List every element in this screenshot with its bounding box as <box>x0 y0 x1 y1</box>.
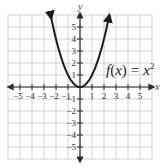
y-tick-label: −3 <box>66 118 76 128</box>
function-label: f(x)=x2 <box>106 61 154 79</box>
x-tick-label: −2 <box>49 91 59 101</box>
fn-paren-close: ) <box>122 62 127 79</box>
fn-eq: = <box>131 62 139 78</box>
x-tick-label: −3 <box>37 91 47 101</box>
y-axis-label: y <box>77 1 83 12</box>
y-tick-label: −1 <box>66 94 76 104</box>
x-tick-label: 2 <box>102 91 107 101</box>
y-tick-label: 3 <box>72 46 77 56</box>
function-graph: −5−4−3−2−11234554321−1−2−3−4−5 x y f(x)=… <box>0 0 162 167</box>
x-axis-label: x <box>154 81 160 92</box>
y-tick-label: 2 <box>72 58 77 68</box>
x-tick-label: 3 <box>114 91 119 101</box>
x-tick-label: −5 <box>13 91 23 101</box>
x-tick-label: 5 <box>138 91 143 101</box>
y-tick-label: 4 <box>72 34 77 44</box>
y-tick-label: −2 <box>66 106 76 116</box>
x-tick-label: 4 <box>126 91 131 101</box>
y-tick-label: −4 <box>66 130 76 140</box>
fn-exp: 2 <box>150 61 155 71</box>
y-tick-label: 1 <box>72 70 77 80</box>
x-tick-label: 1 <box>90 91 95 101</box>
y-tick-label: −5 <box>66 142 76 152</box>
x-tick-label: −4 <box>25 91 35 101</box>
y-tick-label: 5 <box>72 22 77 32</box>
